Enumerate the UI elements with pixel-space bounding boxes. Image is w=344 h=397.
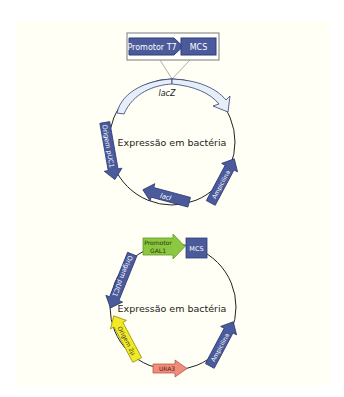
inset-box: Promotor T7 MCS bbox=[127, 33, 219, 79]
zoom-line-right bbox=[172, 60, 190, 79]
laci-label: lacI bbox=[159, 192, 172, 203]
center-label-top: Expressão em bactéria bbox=[118, 137, 227, 148]
plasmid-top: Promotor T7 MCS lacZ Expressão em bactér… bbox=[96, 33, 242, 211]
laci-arrow: lacI bbox=[140, 181, 191, 211]
mcs-label-top: MCS bbox=[190, 43, 208, 52]
mcs-label-bottom: MCS bbox=[189, 245, 203, 253]
promoter-gal1-label-line1: Promotor bbox=[144, 239, 172, 246]
center-label-bottom: Expressão em bactéria bbox=[118, 303, 227, 314]
origin-puc1-arrow-top: Origem pUC1 bbox=[96, 121, 124, 181]
lacz-arrow-right bbox=[172, 79, 230, 112]
lacz-label: lacZ bbox=[158, 89, 176, 98]
promoter-t7-label: Promotor T7 bbox=[127, 43, 176, 52]
ampicillin-arrow-bottom: Ampicilina bbox=[202, 318, 241, 371]
promoter-gal1-label-line2: GAL1 bbox=[150, 247, 166, 254]
zoom-line-left bbox=[160, 60, 172, 79]
ampicillin-arrow-top: Ampicilina bbox=[203, 155, 242, 208]
ura3-label: URA3 bbox=[159, 365, 175, 372]
plasmid-diagrams: Promotor T7 MCS lacZ Expressão em bactér… bbox=[0, 0, 344, 397]
plasmid-bottom: Promotor GAL1 MCS Expressão em bactéria … bbox=[102, 234, 241, 377]
